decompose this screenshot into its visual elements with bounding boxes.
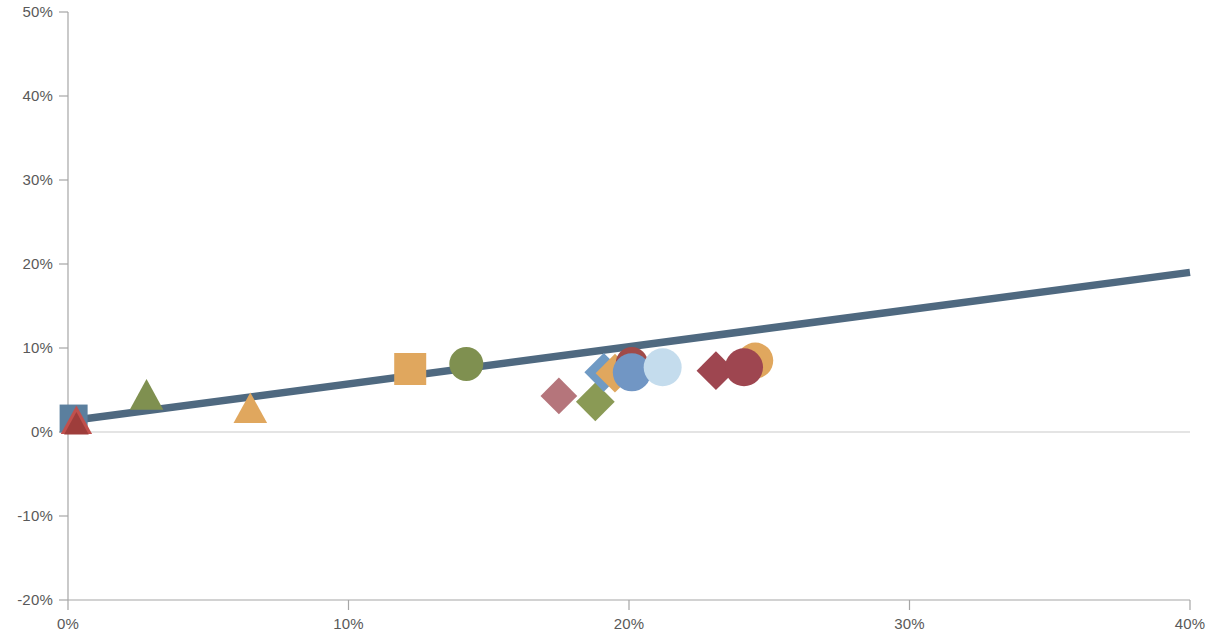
data-point-square [394, 353, 426, 385]
data-markers [60, 343, 774, 435]
y-axis [59, 12, 68, 600]
data-point-diamond [576, 382, 615, 421]
y-tick-label: 0% [31, 423, 53, 440]
x-tick-label: 40% [1175, 615, 1206, 632]
data-point-circle [725, 348, 763, 386]
y-tick-label: 40% [22, 87, 53, 104]
y-tick-label: 20% [22, 255, 53, 272]
data-point-circle [644, 348, 682, 386]
trend-line [68, 272, 1190, 421]
x-tick-label: 10% [333, 615, 364, 632]
data-point-diamond [541, 378, 578, 415]
y-tick-label: 10% [22, 339, 53, 356]
y-tick-label: -10% [17, 507, 53, 524]
x-tick-label: 0% [57, 615, 79, 632]
x-tick-labels: 0%10%20%30%40% [57, 615, 1205, 632]
chart-canvas: 50%40%30%20%10%0%-10%-20% 0%10%20%30%40% [0, 0, 1220, 635]
data-point-circle [449, 347, 483, 381]
y-tick-label: 30% [22, 171, 53, 188]
y-tick-label: 50% [22, 3, 53, 20]
y-tick-label: -20% [17, 591, 53, 608]
scatter-chart: 50%40%30%20%10%0%-10%-20% 0%10%20%30%40% [0, 0, 1220, 635]
x-tick-label: 30% [894, 615, 925, 632]
x-tick-label: 20% [614, 615, 645, 632]
trendline-path [68, 272, 1190, 421]
y-tick-labels: 50%40%30%20%10%0%-10%-20% [17, 3, 53, 608]
data-point-triangle [130, 379, 164, 410]
x-axis [68, 600, 1190, 610]
